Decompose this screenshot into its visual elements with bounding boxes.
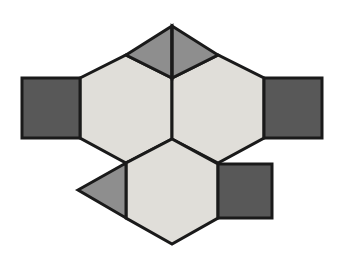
square-lower-right <box>218 164 272 218</box>
square-right <box>264 78 322 138</box>
square-left <box>22 78 80 138</box>
tiling-diagram <box>0 0 344 255</box>
figure-root <box>0 0 344 255</box>
